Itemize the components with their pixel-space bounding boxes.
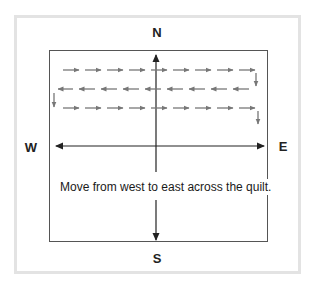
quilt-diagram xyxy=(0,0,313,281)
east-label: E xyxy=(279,140,288,153)
west-label: W xyxy=(25,141,37,154)
diagram-caption: Move from west to east across the quilt. xyxy=(58,179,273,195)
north-label: N xyxy=(152,26,161,39)
south-label: S xyxy=(153,252,162,265)
